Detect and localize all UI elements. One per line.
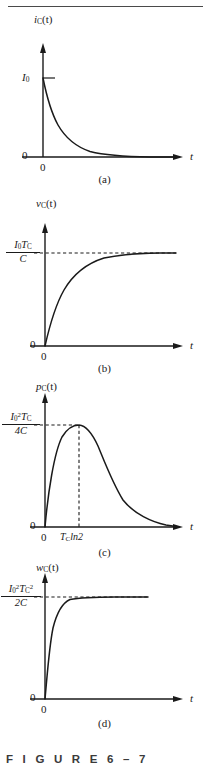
panel-b: vC(t) I0TC C 0 0 t (b) [0, 198, 209, 384]
panel-b-x-axis-label: t [190, 340, 193, 351]
panel-b-origin-left: 0 [30, 339, 36, 350]
panel-a-sub-caption: (a) [0, 174, 209, 185]
panel-a-x-axis-label: t [190, 151, 193, 162]
panel-c-sub-caption: (c) [0, 547, 209, 558]
panel-d-y-axis-label: wC(t) [36, 562, 59, 574]
panel-b-asymptote-label: I0TC C [6, 239, 40, 264]
panel-c: pC(t) I02TC 4C 0 0 TCln2 t (c) [0, 381, 209, 571]
panel-a: iC(t) I0 0 0 t (a) [0, 14, 209, 190]
plot-b [0, 198, 209, 384]
plot-c [0, 381, 209, 571]
panel-d-x-axis-label: t [190, 693, 193, 704]
panel-d-sub-caption: (d) [0, 718, 209, 729]
figure-caption: F I G U R E 6 – 7 [6, 753, 149, 765]
panel-c-origin-below: 0 [41, 532, 47, 543]
panel-c-x-axis-label: t [190, 521, 193, 532]
panel-b-sub-caption: (b) [0, 363, 209, 374]
panel-a-origin-left: 0 [22, 150, 28, 161]
panel-c-x-annotation: TCln2 [60, 532, 83, 543]
figure-page: iC(t) I0 0 0 t (a) vC(t) I0TC C [0, 0, 209, 773]
panel-c-y-axis-label: pC(t) [36, 381, 57, 393]
top-horizontal-rule [8, 6, 203, 7]
panel-d-asymptote-label: I02TC2 2C [1, 583, 41, 608]
panel-a-origin-below: 0 [40, 162, 46, 173]
panel-b-origin-below: 0 [41, 351, 47, 362]
plot-a [0, 14, 209, 190]
panel-d: wC(t) I02TC2 2C 0 0 t (d) [0, 562, 209, 742]
panel-c-peak-label: I02TC 4C [2, 411, 40, 436]
panel-c-origin-left: 0 [30, 520, 36, 531]
panel-a-y-axis-label: iC(t) [34, 14, 52, 26]
panel-d-origin-left: 0 [30, 692, 36, 703]
panel-b-y-axis-label: vC(t) [36, 198, 56, 210]
panel-a-y-tick-label: I0 [22, 72, 29, 84]
panel-d-origin-below: 0 [41, 704, 47, 715]
